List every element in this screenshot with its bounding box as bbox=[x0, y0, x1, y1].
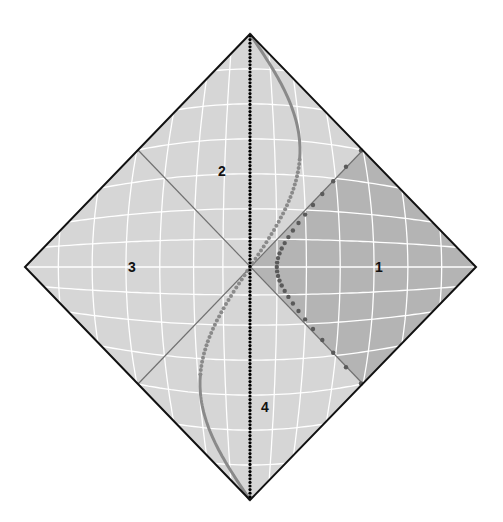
axis-dot bbox=[248, 283, 251, 286]
axis-dot bbox=[248, 146, 251, 149]
s-curve-dot bbox=[237, 282, 241, 286]
s-curve-dot bbox=[201, 356, 205, 360]
s-curve-dot bbox=[297, 162, 301, 166]
s-curve-dot bbox=[217, 315, 221, 319]
axis-dot bbox=[248, 402, 251, 405]
s-curve-dot bbox=[277, 220, 281, 224]
axis-dot bbox=[248, 132, 251, 135]
axis-dot bbox=[248, 268, 251, 271]
hyperbola-dot bbox=[311, 203, 315, 207]
s-curve-dot bbox=[267, 236, 271, 240]
s-curve-dot bbox=[285, 203, 289, 207]
axis-dot bbox=[248, 438, 251, 441]
axis-dot bbox=[248, 103, 251, 106]
region-label-3: 3 bbox=[128, 259, 136, 275]
axis-dot bbox=[248, 218, 251, 221]
axis-dot bbox=[248, 247, 251, 250]
axis-dot bbox=[248, 261, 251, 264]
s-curve-dot bbox=[297, 166, 301, 170]
axis-dot bbox=[248, 380, 251, 383]
s-curve-dot bbox=[289, 195, 293, 199]
s-curve-dot bbox=[208, 335, 212, 339]
s-curve-dot bbox=[262, 244, 266, 248]
s-curve-dot bbox=[293, 183, 297, 187]
axis-dot bbox=[248, 481, 251, 484]
hyperbola-dot bbox=[320, 192, 324, 196]
axis-dot bbox=[248, 294, 251, 297]
axis-dot bbox=[248, 106, 251, 109]
axis-dot bbox=[248, 337, 251, 340]
axis-dot bbox=[248, 477, 251, 480]
axis-dot bbox=[248, 204, 251, 207]
s-curve-dot bbox=[298, 158, 302, 162]
hyperbola-dot bbox=[276, 256, 280, 260]
axis-dot bbox=[248, 243, 251, 246]
axis-dot bbox=[248, 99, 251, 102]
axis-dot bbox=[248, 488, 251, 491]
hyperbola-dot bbox=[296, 221, 300, 225]
hyperbola-dot bbox=[291, 301, 295, 305]
axis-dot bbox=[248, 362, 251, 365]
axis-dot bbox=[248, 168, 251, 171]
axis-dot bbox=[248, 387, 251, 390]
axis-dot bbox=[248, 470, 251, 473]
hyperbola-dot bbox=[311, 327, 315, 331]
axis-dot bbox=[248, 420, 251, 423]
axis-dot bbox=[248, 150, 251, 153]
axis-dot bbox=[248, 355, 251, 358]
axis-dot bbox=[248, 452, 251, 455]
hyperbola-dot bbox=[344, 365, 348, 369]
s-curve-dot bbox=[209, 331, 213, 335]
axis-dot bbox=[248, 186, 251, 189]
axis-dot bbox=[248, 358, 251, 361]
s-curve-dot bbox=[290, 191, 294, 195]
axis-dot bbox=[248, 463, 251, 466]
s-curve-dot bbox=[279, 216, 283, 220]
axis-dot bbox=[248, 384, 251, 387]
axis-dot bbox=[248, 207, 251, 210]
s-curve-dot bbox=[215, 319, 219, 323]
s-curve-dot bbox=[243, 273, 247, 277]
axis-dot bbox=[248, 398, 251, 401]
axis-dot bbox=[248, 175, 251, 178]
s-curve-dot bbox=[232, 290, 236, 294]
region-label-1: 1 bbox=[375, 259, 383, 275]
axis-dot bbox=[248, 160, 251, 163]
axis-dot bbox=[248, 171, 251, 174]
axis-dot bbox=[248, 348, 251, 351]
s-curve-dot bbox=[205, 343, 209, 347]
axis-dot bbox=[248, 63, 251, 66]
axis-dot bbox=[248, 474, 251, 477]
axis-dot bbox=[248, 456, 251, 459]
axis-dot bbox=[248, 272, 251, 275]
axis-dot bbox=[248, 351, 251, 354]
s-curve-dot bbox=[200, 360, 204, 364]
axis-dot bbox=[248, 301, 251, 304]
hyperbola-dot bbox=[275, 260, 279, 264]
s-curve-dot bbox=[199, 364, 203, 368]
hyperbola-dot bbox=[291, 228, 295, 232]
hyperbola-dot bbox=[344, 165, 348, 169]
axis-dot bbox=[248, 196, 251, 199]
axis-dot bbox=[248, 373, 251, 376]
axis-dot bbox=[248, 52, 251, 55]
axis-dot bbox=[248, 333, 251, 336]
s-curve-dot bbox=[264, 240, 268, 244]
axis-dot bbox=[248, 466, 251, 469]
axis-dot bbox=[248, 45, 251, 48]
hyperbola-dot bbox=[283, 289, 287, 293]
axis-dot bbox=[248, 189, 251, 192]
s-curve-dot bbox=[270, 232, 274, 236]
hyperbola-dot bbox=[303, 212, 307, 216]
axis-dot bbox=[248, 312, 251, 315]
s-curve-dot bbox=[206, 339, 210, 343]
axis-dot bbox=[248, 423, 251, 426]
axis-dot bbox=[248, 92, 251, 95]
hyperbola-dot bbox=[286, 235, 290, 239]
axis-dot bbox=[248, 124, 251, 127]
hyperbola-dot bbox=[296, 309, 300, 313]
s-curve-dot bbox=[274, 224, 278, 228]
hyperbola-dot bbox=[283, 241, 287, 245]
s-curve-dot bbox=[227, 298, 231, 302]
axis-dot bbox=[248, 164, 251, 167]
